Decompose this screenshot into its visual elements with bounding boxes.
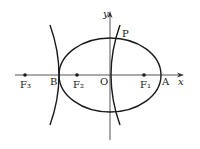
label-f3: F₃: [20, 79, 31, 90]
focus-f3-dot: [23, 73, 27, 77]
label-x-axis: x: [178, 76, 184, 87]
label-y-axis: y: [102, 8, 109, 19]
label-p: P: [122, 28, 129, 39]
label-f2: F₂: [73, 79, 84, 90]
label-a: A: [161, 76, 170, 87]
conic-diagram: F₃ B F₂ O F₁ A x y P: [0, 0, 200, 149]
label-f1: F₁: [140, 79, 151, 90]
label-origin: O: [100, 76, 108, 87]
label-b: B: [50, 76, 57, 87]
focus-f2-dot: [75, 73, 79, 77]
focus-f1-dot: [142, 73, 146, 77]
